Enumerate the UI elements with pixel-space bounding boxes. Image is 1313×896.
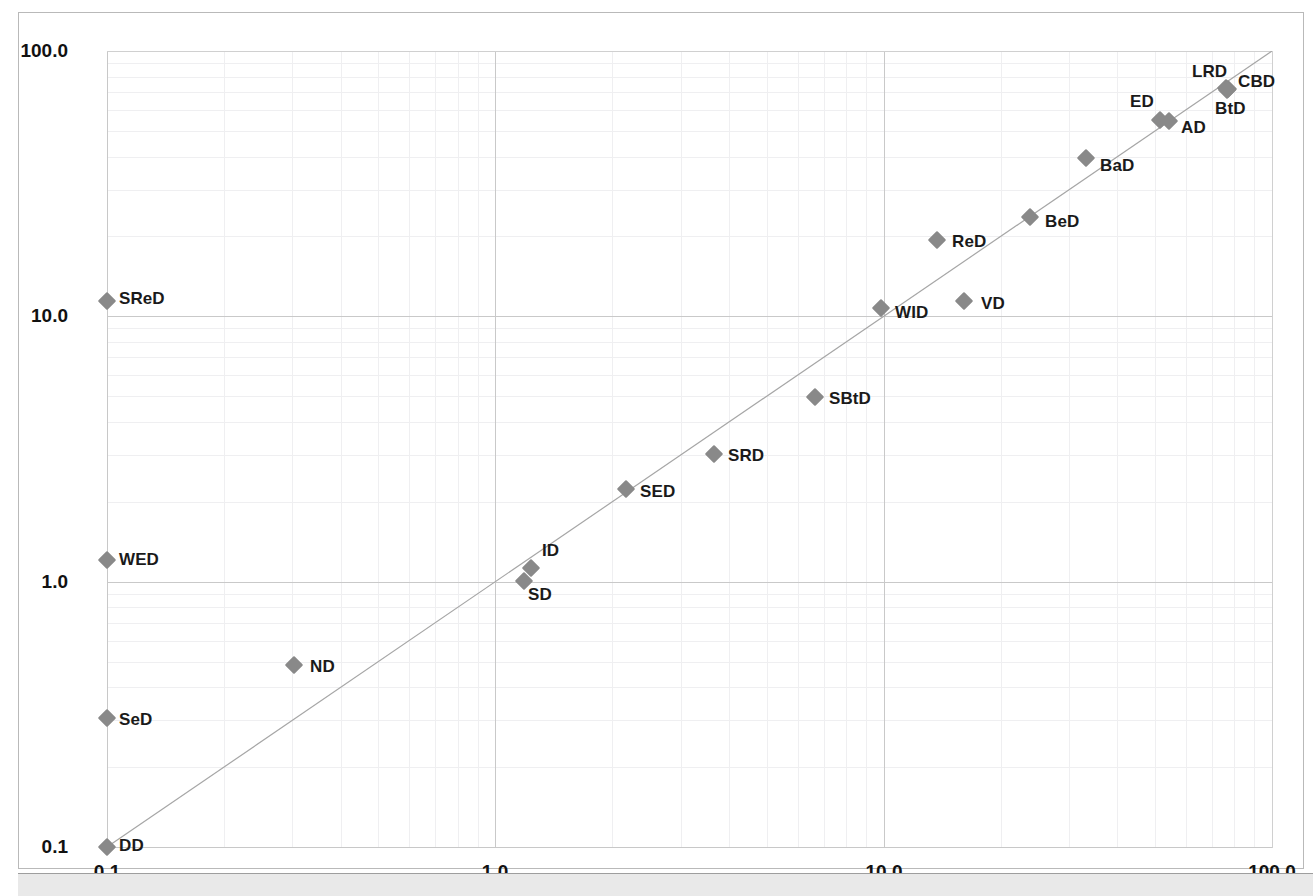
gridline-minor-vertical <box>824 51 825 847</box>
gridline-major-vertical <box>495 51 496 847</box>
gridline-minor-vertical <box>866 51 867 847</box>
gridline-minor-vertical <box>458 51 459 847</box>
gridline-minor-vertical <box>1212 51 1213 847</box>
plot-axis-left <box>107 51 108 848</box>
data-point-label: LRD <box>1192 62 1227 82</box>
data-point-marker[interactable] <box>98 292 116 310</box>
gridline-minor-horizontal <box>107 641 1272 642</box>
gridline-minor-horizontal <box>107 190 1272 191</box>
data-point-marker[interactable] <box>617 480 635 498</box>
data-point-label: ND <box>310 657 335 677</box>
gridline-minor-horizontal <box>107 131 1272 132</box>
gridline-minor-vertical <box>1001 51 1002 847</box>
bottom-strip <box>18 873 1313 896</box>
figure-frame: SReDWEDSeDDDNDSDIDSEDSRDSBtDWIDVDReDBeDB… <box>18 12 1304 869</box>
plot-border-top <box>107 51 1273 52</box>
gridline-minor-horizontal <box>107 357 1272 358</box>
gridline-minor-vertical <box>292 51 293 847</box>
identity-reference-line <box>107 51 1272 847</box>
gridline-minor-vertical <box>681 51 682 847</box>
data-point-label: ID <box>542 541 559 561</box>
data-point-marker[interactable] <box>872 299 890 317</box>
gridline-minor-horizontal <box>107 236 1272 237</box>
gridline-minor-horizontal <box>107 77 1272 78</box>
data-point-marker[interactable] <box>1077 149 1095 167</box>
y-tick-label: 10.0 <box>31 305 68 327</box>
data-point-label: SReD <box>119 289 165 309</box>
data-point-label: WED <box>119 550 159 570</box>
gridline-minor-vertical <box>378 51 379 847</box>
gridline-minor-horizontal <box>107 767 1272 768</box>
gridline-minor-horizontal <box>107 662 1272 663</box>
gridline-minor-vertical <box>846 51 847 847</box>
gridline-minor-vertical <box>341 51 342 847</box>
data-point-marker[interactable] <box>98 838 116 856</box>
data-point-label: BaD <box>1100 156 1134 176</box>
gridline-minor-horizontal <box>107 63 1272 64</box>
data-point-label: SRD <box>728 446 764 466</box>
gridline-minor-vertical <box>1155 51 1156 847</box>
data-point-marker[interactable] <box>98 709 116 727</box>
gridline-minor-horizontal <box>107 92 1272 93</box>
gridline-minor-vertical <box>798 51 799 847</box>
gridline-minor-vertical <box>1069 51 1070 847</box>
data-point-label: ED <box>1130 92 1154 112</box>
data-point-marker[interactable] <box>705 445 723 463</box>
gridline-minor-horizontal <box>107 375 1272 376</box>
data-point-marker[interactable] <box>955 292 973 310</box>
gridline-minor-horizontal <box>107 342 1272 343</box>
plot-axis-bottom <box>107 847 1273 848</box>
gridline-minor-horizontal <box>107 455 1272 456</box>
data-point-marker[interactable] <box>1021 208 1039 226</box>
y-tick-label: 0.1 <box>42 836 68 858</box>
gridline-minor-vertical <box>767 51 768 847</box>
gridline-major-vertical <box>884 51 885 847</box>
gridline-minor-vertical <box>224 51 225 847</box>
gridline-major-horizontal <box>107 582 1272 583</box>
y-tick-label: 1.0 <box>42 571 68 593</box>
gridline-major-horizontal <box>107 316 1272 317</box>
gridline-minor-horizontal <box>107 328 1272 329</box>
gridline-minor-horizontal <box>107 687 1272 688</box>
data-point-label: DD <box>119 836 144 856</box>
data-point-label: SD <box>528 585 552 605</box>
data-point-marker[interactable] <box>285 656 303 674</box>
data-point-label: SED <box>640 482 675 502</box>
data-point-label: AD <box>1181 118 1206 138</box>
gridline-minor-vertical <box>435 51 436 847</box>
y-tick-label: 100.0 <box>20 40 68 62</box>
data-point-marker[interactable] <box>98 551 116 569</box>
gridline-minor-horizontal <box>107 396 1272 397</box>
gridline-minor-vertical <box>1234 51 1235 847</box>
gridline-minor-horizontal <box>107 110 1272 111</box>
gridline-minor-vertical <box>409 51 410 847</box>
gridline-minor-horizontal <box>107 422 1272 423</box>
data-point-marker[interactable] <box>928 231 946 249</box>
data-point-label: VD <box>981 294 1005 314</box>
data-point-marker[interactable] <box>806 388 824 406</box>
gridline-minor-horizontal <box>107 623 1272 624</box>
gridline-minor-vertical <box>1254 51 1255 847</box>
data-point-label: SBtD <box>829 389 871 409</box>
gridline-minor-horizontal <box>107 720 1272 721</box>
data-point-label: BtD <box>1215 99 1246 119</box>
data-point-label: ReD <box>952 232 986 252</box>
data-point-label: SeD <box>119 710 152 730</box>
chart-page: SReDWEDSeDDDNDSDIDSEDSRDSBtDWIDVDReDBeDB… <box>0 0 1313 896</box>
gridline-minor-vertical <box>478 51 479 847</box>
gridline-minor-vertical <box>612 51 613 847</box>
gridline-minor-horizontal <box>107 607 1272 608</box>
gridline-minor-horizontal <box>107 157 1272 158</box>
data-point-label: BeD <box>1045 212 1079 232</box>
data-point-label: CBD <box>1238 72 1275 92</box>
gridline-minor-vertical <box>1186 51 1187 847</box>
data-point-label: WID <box>895 303 928 323</box>
gridline-minor-horizontal <box>107 594 1272 595</box>
gridline-minor-horizontal <box>107 502 1272 503</box>
plot-border-right <box>1272 51 1273 848</box>
